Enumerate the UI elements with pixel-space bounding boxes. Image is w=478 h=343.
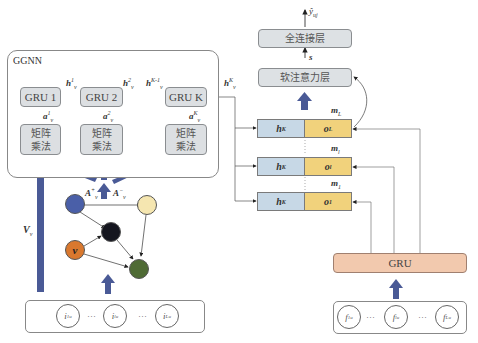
fully-connected-layer: 全连接层 (258, 29, 352, 48)
graph-node-black (101, 222, 121, 242)
feature-node-1: f1u (337, 305, 361, 329)
feature-node-L: fLu (435, 305, 459, 329)
input-label-2: a2v (103, 110, 113, 123)
hidden-label-k: hKv (224, 77, 236, 90)
gru-cell-2: GRU 2 (80, 87, 123, 107)
item-ellipsis-1: ··· (87, 311, 96, 321)
s-label: s (309, 52, 313, 62)
h-cell-l: hK (257, 157, 305, 176)
item-node-l: ilu (103, 304, 127, 328)
graph-node-blue (65, 194, 85, 214)
adj-out-label: A−v (113, 187, 126, 200)
item-node-L: iLu (155, 304, 179, 328)
graph-node-v: v (65, 240, 85, 260)
item-node-1: i1u (56, 304, 80, 328)
item-embedding-label: Vv (23, 224, 32, 237)
h-cell-1: hK (257, 192, 305, 211)
adj-in-label: A+v (85, 187, 98, 200)
soft-attention-layer: 软注意力层 (258, 68, 352, 87)
graph-node-cream (137, 195, 157, 215)
matmul-box-k: 矩阵乘法 (165, 124, 207, 155)
h-cell-L: hK (257, 119, 305, 138)
m-label-L: mL (331, 105, 341, 117)
output-label: ŷuj (309, 6, 318, 18)
graph-node-green (129, 259, 149, 279)
gru-cell-1: GRU 1 (20, 87, 61, 107)
m-label-l: ml (331, 143, 340, 155)
item-ellipsis-2: ··· (138, 311, 147, 321)
gru-cell-k: GRU K (165, 87, 207, 107)
hidden-label-1: h1v (66, 77, 77, 90)
feature-ellipsis-1: ··· (366, 312, 375, 322)
feature-gru: GRU (333, 253, 467, 273)
hidden-label-2: h2v (123, 77, 134, 90)
hidden-label-k-1: hK-1v (146, 77, 163, 90)
matmul-box-2: 矩阵乘法 (80, 124, 123, 155)
o-cell-l: ol (304, 157, 352, 176)
o-cell-L: oL (304, 119, 352, 138)
matmul-box-1: 矩阵乘法 (20, 124, 61, 155)
feature-ellipsis-2: ··· (418, 312, 427, 322)
m-label-1: m1 (331, 178, 341, 190)
ggnn-title: GGNN (13, 55, 42, 66)
o-cell-1: o1 (304, 192, 352, 211)
input-label-1: a1v (43, 110, 53, 123)
feature-node-l: flu (384, 305, 408, 329)
input-label-k: aKv (189, 110, 200, 123)
